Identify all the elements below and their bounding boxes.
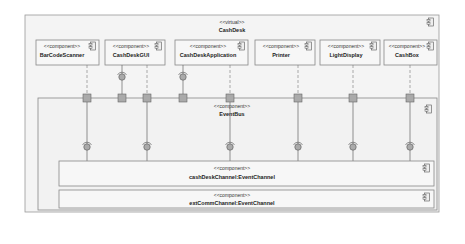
eventbus-name: EventBus bbox=[219, 111, 244, 117]
component-name: LightDisplay bbox=[329, 52, 363, 58]
component-cashbox[interactable]: <<component>> CashBox bbox=[384, 40, 437, 65]
component-cashdeskapplication[interactable]: <<component>> CashDeskApplication bbox=[175, 40, 248, 65]
component-name: Printer bbox=[272, 52, 291, 58]
component-printer[interactable]: <<component>> Printer bbox=[255, 40, 315, 65]
component-stereotype: <<component>> bbox=[389, 43, 425, 49]
eventbus-stereotype: <<component>> bbox=[214, 103, 250, 109]
component-name: CashBox bbox=[395, 52, 420, 58]
channel-name: cashDeskChannel:EventChannel bbox=[189, 174, 275, 180]
component-diagram: <<virtual>> CashDesk <<component>> BarCo… bbox=[0, 0, 465, 244]
channel-name: extCommChannel:EventChannel bbox=[189, 200, 275, 206]
component-lightdisplay[interactable]: <<component>> LightDisplay bbox=[320, 40, 380, 65]
component-stereotype: <<component>> bbox=[328, 43, 364, 49]
cashdesk-stereotype: <<virtual>> bbox=[219, 19, 244, 25]
component-barcodescanner[interactable]: <<component>> BarCodeScanner bbox=[36, 40, 99, 65]
component-name: CashDeskApplication bbox=[180, 52, 237, 58]
component-stereotype: <<component>> bbox=[263, 43, 299, 49]
channel-stereotype: <<component>> bbox=[214, 165, 250, 171]
cashdesk-name: CashDesk bbox=[219, 27, 247, 33]
channel-stereotype: <<component>> bbox=[214, 192, 250, 198]
component-name: BarCodeScanner bbox=[40, 52, 85, 58]
component-stereotype: <<component>> bbox=[113, 43, 149, 49]
channel-cashdesk[interactable]: <<component>> cashDeskChannel:EventChann… bbox=[59, 161, 434, 186]
component-name: CashDeskGUI bbox=[113, 52, 150, 58]
component-stereotype: <<component>> bbox=[190, 43, 226, 49]
component-stereotype: <<component>> bbox=[44, 43, 80, 49]
component-cashdeskgui[interactable]: <<component>> CashDeskGUI bbox=[105, 40, 165, 65]
channel-extcomm[interactable]: <<component>> extCommChannel:EventChanne… bbox=[59, 190, 434, 208]
